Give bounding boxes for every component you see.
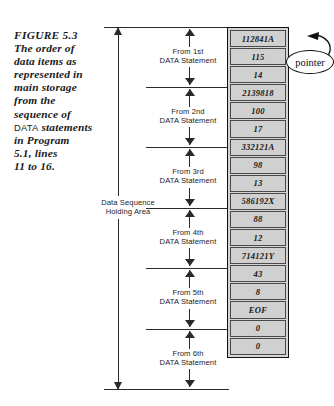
group-label-line2: DATA Statement <box>150 237 226 246</box>
memory-cell: 17 <box>230 120 286 137</box>
arrow-shaft <box>189 210 190 228</box>
memory-cell-column: 112841A 115 14 2139818 100 17 332121A 98… <box>227 27 289 358</box>
arrow-head-up-icon <box>185 89 195 96</box>
memory-cell: 586192X <box>230 193 286 210</box>
arrow-head-down-icon <box>185 199 195 206</box>
caption-line: data items as <box>14 55 106 68</box>
group-label-line1: From 2nd <box>150 107 226 116</box>
group-label-line2: DATA Statement <box>150 56 226 65</box>
arrow-shaft <box>189 331 190 349</box>
caption-line-data-statements: DATA statements <box>14 121 106 134</box>
group-arrow-up <box>185 89 195 107</box>
group-label-line1: From 4th <box>150 228 226 237</box>
caption-line: represented in <box>14 68 106 81</box>
caption-line: sequence of <box>14 108 106 121</box>
arrow-head-down-icon <box>185 259 195 266</box>
arrow-head-down-icon <box>185 380 195 387</box>
arrow-head-down-icon <box>185 138 195 145</box>
group-arrow-down <box>185 309 195 327</box>
group-arrow-down <box>185 188 195 206</box>
arrow-head-up-icon <box>185 210 195 217</box>
arrow-shaft <box>189 149 190 167</box>
memory-cell: 714121Y <box>230 247 286 264</box>
caption-line: in Program <box>14 134 106 147</box>
arrow-head-down-icon <box>185 78 195 85</box>
arrow-shaft <box>189 270 190 288</box>
memory-cell: 115 <box>230 48 286 65</box>
group-label-4: From 4th DATA Statement <box>150 228 226 246</box>
caption-line: The order of <box>14 42 106 55</box>
group-label-1: From 1st DATA Statement <box>150 47 226 65</box>
group-statement-1: From 1st DATA Statement <box>150 27 226 87</box>
memory-cell: 88 <box>230 211 286 228</box>
caption-word-statements: statements <box>41 121 92 133</box>
memory-cell: 2139818 <box>230 84 286 101</box>
arrow-head-down-icon <box>185 320 195 327</box>
group-statement-6: From 6th DATA Statement <box>150 329 226 389</box>
group-arrow-up <box>185 331 195 349</box>
memory-cell: 112841A <box>230 30 286 47</box>
memory-cell: 0 <box>230 320 286 337</box>
figure-container: FIGURE 5.3 The order of data items as re… <box>0 0 334 406</box>
group-label-line2: DATA Statement <box>150 176 226 185</box>
group-label-6: From 6th DATA Statement <box>150 349 226 367</box>
group-arrow-down <box>185 67 195 85</box>
group-label-line2: DATA Statement <box>150 358 226 367</box>
arrow-shaft <box>189 29 190 47</box>
arrow-head-up-icon <box>185 331 195 338</box>
figure-caption: FIGURE 5.3 The order of data items as re… <box>14 29 106 173</box>
memory-cell: EOF <box>230 301 286 318</box>
memory-cell: 332121A <box>230 139 286 156</box>
arrow-head-up-icon <box>185 149 195 156</box>
group-label-line1: From 1st <box>150 47 226 56</box>
group-statement-5: From 5th DATA Statement <box>150 268 226 329</box>
caption-line: main storage <box>14 81 106 94</box>
caption-keyword-data: DATA <box>14 122 38 133</box>
group-arrow-up <box>185 210 195 228</box>
arrow-shaft <box>189 89 190 107</box>
group-label-line1: From 3rd <box>150 167 226 176</box>
memory-cell: 0 <box>230 338 286 355</box>
group-label-3: From 3rd DATA Statement <box>150 167 226 185</box>
caption-line: 11 to 16. <box>14 160 106 173</box>
memory-cell: 100 <box>230 102 286 119</box>
arrow-head-down-icon <box>114 382 122 390</box>
group-statement-4: From 4th DATA Statement <box>150 208 226 268</box>
group-label-line2: DATA Statement <box>150 116 226 125</box>
figure-number: FIGURE 5.3 <box>14 29 106 42</box>
group-arrow-down <box>185 369 195 387</box>
arrow-head-up-icon <box>185 29 195 36</box>
group-label-line2: DATA Statement <box>150 297 226 306</box>
group-statement-2: From 2nd DATA Statement <box>150 87 226 147</box>
arrow-head-up-icon <box>185 270 195 277</box>
group-label-line1: From 5th <box>150 288 226 297</box>
group-label-line1: From 6th <box>150 349 226 358</box>
group-statement-3: From 3rd DATA Statement <box>150 147 226 208</box>
memory-cell: 98 <box>230 157 286 174</box>
memory-cell: 12 <box>230 229 286 246</box>
group-divider <box>146 389 229 390</box>
group-label-2: From 2nd DATA Statement <box>150 107 226 125</box>
memory-cell: 43 <box>230 265 286 282</box>
pointer-callout-label: pointer <box>295 57 324 68</box>
group-arrow-up <box>185 29 195 47</box>
memory-cell: 14 <box>230 66 286 83</box>
group-arrow-up <box>185 270 195 288</box>
caption-line: 5.1, lines <box>14 147 106 160</box>
memory-cell: 13 <box>230 175 286 192</box>
group-arrow-up <box>185 149 195 167</box>
caption-line: from the <box>14 94 106 107</box>
group-label-5: From 5th DATA Statement <box>150 288 226 306</box>
pointer-callout: pointer <box>286 50 334 74</box>
group-arrow-down <box>185 127 195 145</box>
group-arrow-down <box>185 248 195 266</box>
memory-cell: 8 <box>230 283 286 300</box>
